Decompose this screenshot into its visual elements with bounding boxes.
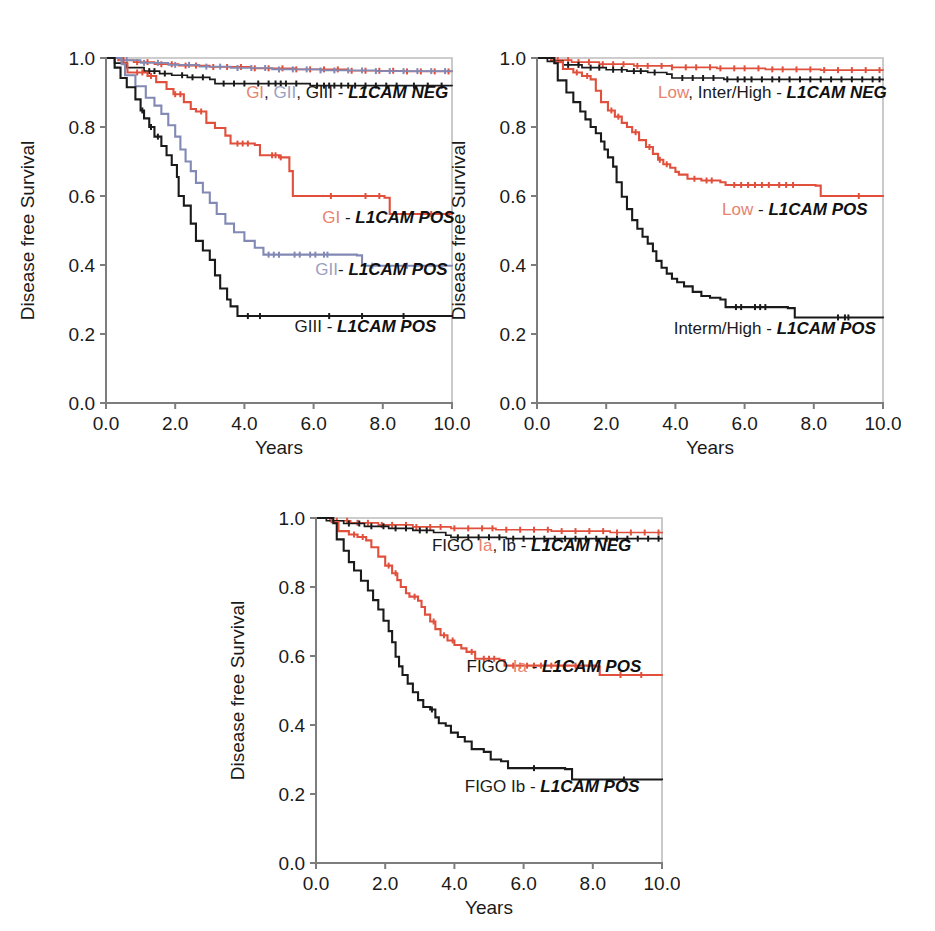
- legend-segment: Interm/High -: [674, 319, 777, 338]
- plot-frame: [537, 58, 883, 403]
- x-tick-label: 8.0: [801, 413, 827, 434]
- plot-area: 0.00.20.40.60.81.00.02.04.06.08.010.0Yea…: [431, 0, 901, 470]
- y-tick-label: 0.0: [279, 853, 305, 874]
- km-curve: [316, 518, 662, 780]
- x-tick-label: 8.0: [580, 873, 606, 894]
- legend-segment: L1CAM NEG: [787, 83, 887, 102]
- plot-area: 0.00.20.40.60.81.00.02.04.06.08.010.0Yea…: [0, 0, 470, 470]
- legend-segment: FIGO: [467, 657, 513, 676]
- legend-segment: , Ib -: [492, 536, 531, 555]
- legend-neg: Low, Inter/High - L1CAM NEG: [658, 83, 887, 102]
- x-tick-label: 0.0: [93, 413, 119, 434]
- chart-panel-risk: 0.00.20.40.60.81.00.02.04.06.08.010.0Yea…: [431, 0, 901, 470]
- legend-segment: -: [753, 200, 768, 219]
- y-axis-title: Disease free Survival: [17, 141, 38, 321]
- x-axis-title: Years: [255, 437, 303, 458]
- legend-segment: L1CAM POS: [768, 200, 868, 219]
- x-axis-title: Years: [465, 897, 513, 918]
- x-tick-label: 0.0: [303, 873, 329, 894]
- y-tick-label: 0.8: [279, 577, 305, 598]
- y-tick-label: 0.6: [500, 186, 526, 207]
- legend-segment: L1CAM POS: [542, 657, 642, 676]
- y-tick-label: 0.2: [500, 324, 526, 345]
- y-tick-label: 0.2: [69, 324, 95, 345]
- legend-gii-pos: GII- L1CAM POS: [315, 260, 448, 279]
- y-tick-label: 0.0: [69, 393, 95, 414]
- y-tick-label: 1.0: [69, 48, 95, 69]
- legend-segment: L1CAM POS: [540, 777, 640, 796]
- legend-segment: GII: [315, 260, 338, 279]
- legend-ib-pos: FIGO Ib - L1CAM POS: [465, 777, 640, 796]
- x-tick-label: 2.0: [162, 413, 188, 434]
- x-tick-label: 4.0: [662, 413, 688, 434]
- axes: [106, 58, 452, 403]
- legend-neg: FIGO Ia, Ib - L1CAM NEG: [432, 536, 631, 555]
- x-tick-label: 10.0: [865, 413, 901, 434]
- legend-giii-pos: GIII - L1CAM POS: [295, 317, 437, 336]
- x-tick-label: 8.0: [370, 413, 396, 434]
- legend-segment: L1CAM NEG: [531, 536, 631, 555]
- legend-high-pos: Interm/High - L1CAM POS: [674, 319, 877, 338]
- y-tick-label: 0.4: [279, 715, 306, 736]
- y-tick-label: 0.6: [69, 186, 95, 207]
- legend-low-pos: Low - L1CAM POS: [722, 200, 868, 219]
- legend-segment: -: [338, 260, 348, 279]
- legend-segment: -: [527, 657, 542, 676]
- legend-segment: -: [340, 208, 355, 227]
- legend-segment: GI: [246, 83, 264, 102]
- axes: [316, 518, 662, 863]
- legend-segment: L1CAM POS: [337, 317, 437, 336]
- y-axis-title: Disease free Survival: [448, 141, 469, 321]
- chart-panel-figo: 0.00.20.40.60.81.00.02.04.06.08.010.0Yea…: [210, 460, 680, 931]
- legend-ia-pos: FIGO Ia - L1CAM POS: [467, 657, 642, 676]
- legend-segment: L1CAM POS: [777, 319, 877, 338]
- legend-segment: Low: [658, 83, 690, 102]
- legend-segment: GIII -: [295, 317, 338, 336]
- y-tick-label: 0.8: [69, 117, 95, 138]
- legend-segment: , Inter/High -: [688, 83, 786, 102]
- x-tick-label: 2.0: [593, 413, 619, 434]
- legend-segment: Ia: [478, 536, 493, 555]
- legend-segment: FIGO: [432, 536, 478, 555]
- legend-segment: Low: [722, 200, 754, 219]
- legend-segment: FIGO Ib -: [465, 777, 541, 796]
- legend-segment: GI: [322, 208, 340, 227]
- legend-segment: , GIII -: [296, 83, 348, 102]
- legend-neg: GI, GII, GIII - L1CAM NEG: [246, 83, 448, 102]
- legend-segment: GII: [274, 83, 297, 102]
- y-tick-label: 0.4: [69, 255, 96, 276]
- legend-segment: Ia: [513, 657, 528, 676]
- chart-panel-grade: 0.00.20.40.60.81.00.02.04.06.08.010.0Yea…: [0, 0, 470, 470]
- plot-frame: [106, 58, 452, 403]
- y-axis-title: Disease free Survival: [227, 601, 248, 781]
- x-axis-title: Years: [686, 437, 734, 458]
- x-tick-label: 0.0: [524, 413, 550, 434]
- plot-frame: [316, 518, 662, 863]
- x-tick-label: 4.0: [231, 413, 257, 434]
- y-tick-label: 0.6: [279, 646, 305, 667]
- y-tick-label: 1.0: [500, 48, 526, 69]
- plot-area: 0.00.20.40.60.81.00.02.04.06.08.010.0Yea…: [210, 460, 680, 930]
- y-tick-label: 1.0: [279, 508, 305, 529]
- x-tick-label: 2.0: [372, 873, 398, 894]
- y-tick-label: 0.8: [500, 117, 526, 138]
- x-tick-label: 4.0: [441, 873, 467, 894]
- x-tick-label: 6.0: [300, 413, 326, 434]
- y-tick-label: 0.2: [279, 784, 305, 805]
- x-tick-label: 10.0: [644, 873, 680, 894]
- x-tick-label: 6.0: [510, 873, 536, 894]
- x-tick-label: 6.0: [731, 413, 757, 434]
- y-tick-label: 0.4: [500, 255, 527, 276]
- legend-segment: ,: [264, 83, 273, 102]
- axes: [537, 58, 883, 403]
- y-tick-label: 0.0: [500, 393, 526, 414]
